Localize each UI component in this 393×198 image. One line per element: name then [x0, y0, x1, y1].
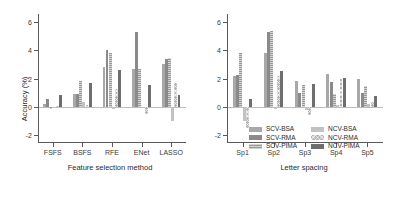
y-tick-left	[34, 22, 38, 23]
legend-label: SCV-BSA	[266, 126, 294, 133]
x-tick-left	[142, 143, 143, 147]
y-tick-label-right: 6	[217, 19, 221, 26]
legend-item: NCV-BSA	[311, 126, 359, 133]
bar	[178, 95, 181, 107]
panel-feature-selection: Accuracy (%) -20246FSFSBSFSRFEENetLASSO …	[0, 0, 196, 198]
x-tick-left	[82, 143, 83, 147]
x-axis-label-left: Feature selection method	[0, 163, 196, 172]
x-tick-right	[367, 143, 368, 147]
y-tick-label-left: 4	[28, 47, 32, 54]
y-tick-label-left: 6	[28, 19, 32, 26]
legend-swatch	[311, 127, 324, 132]
legend-label: SCV-RMA	[266, 135, 296, 142]
bar	[148, 85, 151, 107]
bar	[138, 69, 141, 107]
legend-item: NCV-RMA	[311, 135, 359, 142]
bar	[109, 53, 112, 107]
bar	[168, 58, 171, 106]
legend-swatch	[249, 144, 262, 149]
y-tick-left	[34, 107, 38, 108]
plot-area-right: -20246Sp1Sp2Sp3Sp4Sp5	[227, 14, 383, 143]
plot-area-left: -20246FSFSBSFSRFEENetLASSO	[38, 14, 186, 143]
y-tick-label-left: 0	[28, 103, 32, 110]
bar	[171, 107, 174, 122]
x-tick-left	[53, 143, 54, 147]
bar	[343, 78, 346, 107]
bar	[53, 107, 56, 108]
y-tick-label-left: -2	[26, 131, 32, 138]
legend-swatch	[311, 144, 324, 149]
bar	[246, 107, 249, 129]
bar	[46, 99, 49, 107]
x-tick-left	[171, 143, 172, 147]
y-tick-right	[223, 135, 227, 136]
y-tick-label-right: -2	[215, 131, 221, 138]
bar	[145, 107, 148, 115]
y-tick-left	[34, 79, 38, 80]
bar-series-container-right	[227, 14, 383, 143]
chart-legend: SCV-BSANCV-BSASCV-RMANCV-RMASCV-PIMANCV-…	[249, 126, 359, 150]
bar	[312, 84, 315, 106]
y-tick-right	[223, 22, 227, 23]
bar	[374, 96, 377, 107]
legend-item: SCV-PIMA	[249, 143, 297, 150]
y-tick-left	[34, 50, 38, 51]
legend-label: NCV-BSA	[328, 126, 357, 133]
y-tick-label-right: 4	[217, 47, 221, 54]
bar	[280, 71, 283, 106]
legend-item: SCV-RMA	[249, 135, 297, 142]
bar	[59, 95, 62, 107]
bar	[239, 53, 242, 106]
bar	[274, 107, 277, 110]
bar	[118, 70, 121, 106]
x-tick-label-left: BSFS	[73, 149, 91, 156]
x-tick-label-left: ENet	[134, 149, 150, 156]
y-tick-right	[223, 79, 227, 80]
x-tick-label-right: Sp1	[236, 149, 248, 156]
y-tick-label-right: 2	[217, 75, 221, 82]
legend-label: NCV-RMA	[328, 135, 358, 142]
x-tick-label-left: RFE	[105, 149, 119, 156]
bar-series-container-left	[38, 14, 186, 143]
bar	[112, 107, 115, 110]
legend-item: SCV-BSA	[249, 126, 297, 133]
x-tick-label-right: Sp4	[330, 149, 342, 156]
y-tick-right	[223, 50, 227, 51]
legend-label: NCV-PIMA	[328, 143, 359, 150]
bar	[308, 107, 311, 115]
legend-swatch	[249, 135, 262, 140]
y-tick-label-left: 2	[28, 75, 32, 82]
legend-swatch	[311, 135, 324, 140]
legend-item: NCV-PIMA	[311, 143, 359, 150]
legend-label: SCV-PIMA	[266, 143, 297, 150]
x-tick-right	[243, 143, 244, 147]
panel-letter-spacing: -20246Sp1Sp2Sp3Sp4Sp5 SCV-BSANCV-BSASCV-…	[197, 0, 393, 198]
x-tick-label-right: Sp2	[268, 149, 280, 156]
bar	[89, 83, 92, 106]
y-tick-right	[223, 107, 227, 108]
y-tick-label-right: 0	[217, 103, 221, 110]
x-tick-label-right: Sp5	[361, 149, 373, 156]
x-tick-label-left: FSFS	[44, 149, 62, 156]
y-axis-label-left: Accuracy (%)	[20, 77, 29, 122]
x-tick-label-left: LASSO	[160, 149, 183, 156]
legend-swatch	[249, 127, 262, 132]
x-tick-left	[112, 143, 113, 147]
x-tick-label-right: Sp3	[299, 149, 311, 156]
figure-grouped-bar-charts: Accuracy (%) -20246FSFSBSFSRFEENetLASSO …	[0, 0, 393, 198]
bar	[249, 99, 252, 107]
bar	[270, 31, 273, 107]
y-tick-left	[34, 135, 38, 136]
bar	[302, 85, 305, 107]
x-axis-label-right: Letter spacing	[197, 163, 393, 172]
